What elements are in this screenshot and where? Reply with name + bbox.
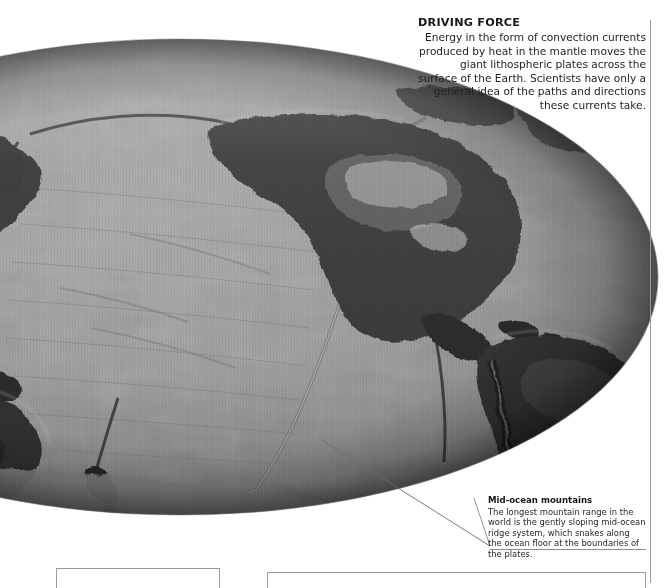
- mid-ocean-mountains-body: The longest mountain range in the world …: [488, 507, 646, 560]
- annotation-driving-force: DRIVING FORCE Energy in the form of conv…: [418, 16, 646, 113]
- mid-ocean-caption-underline: [490, 549, 646, 550]
- driving-force-body: Energy in the form of convection current…: [418, 31, 646, 113]
- right-column-rule: [650, 20, 651, 583]
- bottom-left-panel: [56, 568, 220, 588]
- bottom-right-panel: [267, 572, 646, 588]
- mid-ocean-mountains-title: Mid-ocean mountains: [488, 495, 646, 506]
- driving-force-title: DRIVING FORCE: [418, 16, 646, 30]
